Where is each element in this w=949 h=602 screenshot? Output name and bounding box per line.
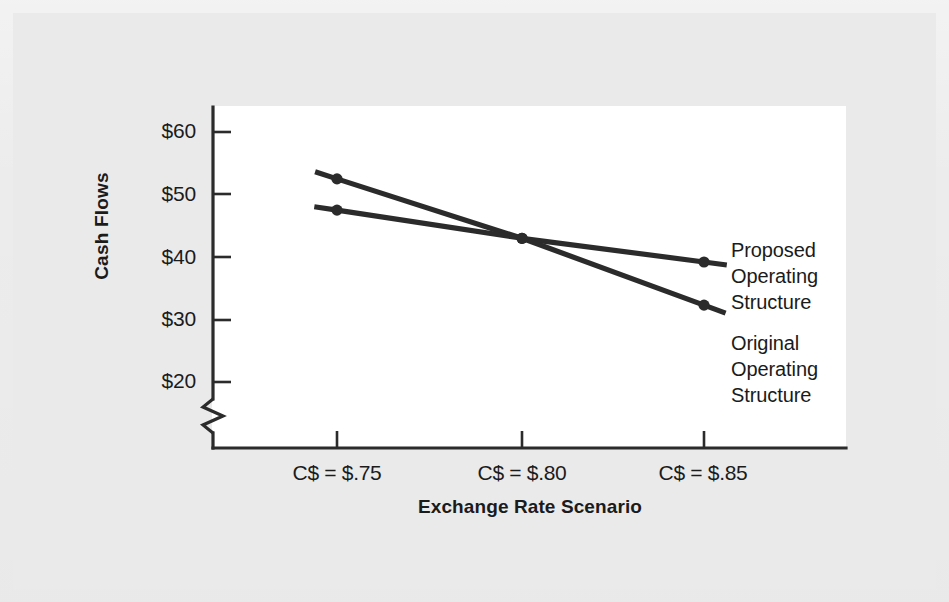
y-axis-break-zigzag bbox=[203, 399, 223, 433]
series-point-proposed-085 bbox=[698, 256, 709, 267]
chart-figure: Cash Flows $60 $50 $40 $30 $20 C$ = $.75… bbox=[0, 0, 949, 602]
series-point-original-080 bbox=[516, 233, 527, 244]
chart-vector-layer bbox=[0, 0, 949, 602]
series-point-original-075 bbox=[331, 205, 342, 216]
series-point-original-085 bbox=[698, 300, 709, 311]
series-point-proposed-075 bbox=[331, 173, 342, 184]
series-line-original-operating-structure bbox=[314, 207, 725, 313]
